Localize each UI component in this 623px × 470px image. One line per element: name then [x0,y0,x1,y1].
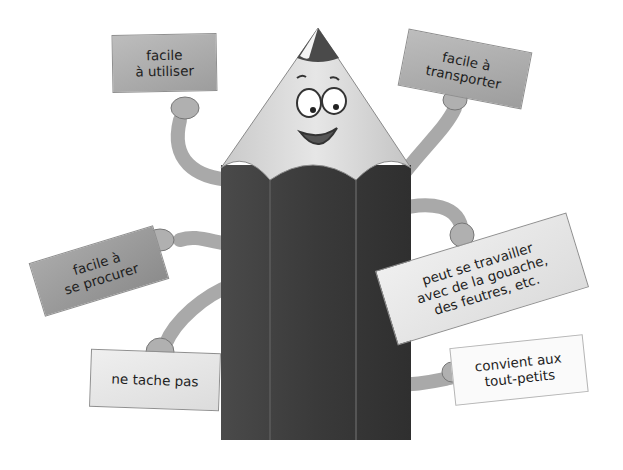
sign-does-not-stain: ne tache pas [89,349,221,412]
pencil-illustration: facile à utiliser facile à transporter f… [0,0,623,470]
pencil-body [221,165,411,440]
sign-easy-to-use: facile à utiliser [112,33,218,93]
